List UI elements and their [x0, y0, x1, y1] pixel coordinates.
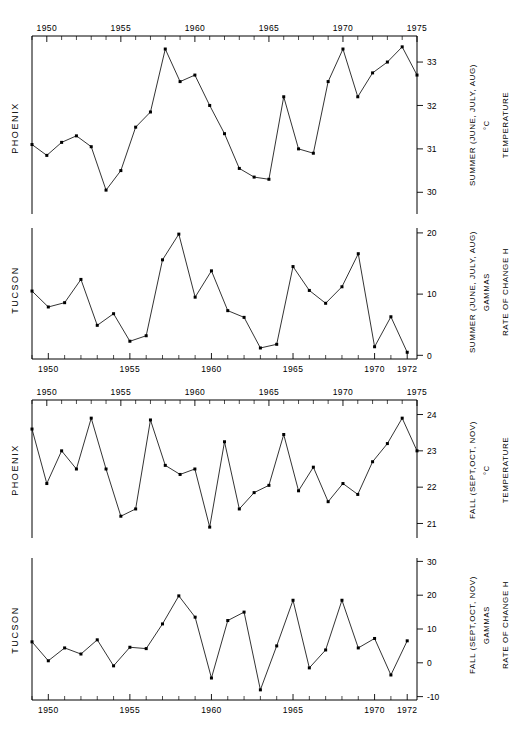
x-tick-label: 1960 [185, 387, 206, 397]
data-point-marker [308, 666, 311, 669]
data-point-marker [253, 491, 256, 494]
y-tick-label: 22 [427, 482, 437, 492]
data-point-marker [112, 312, 115, 315]
figure-background [0, 0, 528, 731]
y-tick-label: 30 [427, 557, 437, 567]
panel-right-label-primary: FALL (SEPT,OCT, NOV) [468, 576, 477, 674]
data-point-marker [275, 343, 278, 346]
y-tick-label: 0 [427, 351, 432, 361]
data-point-marker [223, 440, 226, 443]
data-point-marker [356, 493, 359, 496]
data-point-marker [90, 145, 93, 148]
data-point-marker [119, 169, 122, 172]
data-point-marker [96, 638, 99, 641]
data-point-marker [210, 677, 213, 680]
x-tick-label: 1955 [120, 364, 141, 374]
data-point-marker [341, 48, 344, 51]
data-point-marker [292, 599, 295, 602]
data-point-marker [223, 132, 226, 135]
data-point-marker [243, 316, 246, 319]
data-point-marker [96, 324, 99, 327]
data-point-marker [47, 305, 50, 308]
data-point-marker [179, 473, 182, 476]
data-point-marker [75, 468, 78, 471]
data-point-marker [401, 417, 404, 420]
data-point-marker [341, 482, 344, 485]
panel-left-label: PHOENIX [10, 102, 20, 154]
data-point-marker [164, 48, 167, 51]
panel-right-label-primary: SUMMER (JUNE, JULY, AUG) [468, 64, 477, 186]
data-point-marker [177, 594, 180, 597]
data-point-marker [79, 278, 82, 281]
x-tick-label: 1965 [259, 23, 280, 33]
x-tick-label: 1970 [333, 387, 354, 397]
x-tick-label: 1965 [283, 364, 304, 374]
data-point-marker [45, 482, 48, 485]
y-tick-label: 20 [427, 590, 437, 600]
panel-right-label-primary: SUMMER (JUNE, JULY, AUG) [468, 231, 477, 353]
data-point-marker [105, 468, 108, 471]
y-tick-label: 10 [427, 624, 437, 634]
data-point-marker [292, 265, 295, 268]
panel-right-label-secondary: TEMPERATURE [501, 92, 510, 158]
data-point-marker [149, 110, 152, 113]
data-point-marker [297, 489, 300, 492]
data-point-marker [226, 309, 229, 312]
x-tick-label: 1965 [283, 705, 304, 715]
multi-panel-timeseries-chart: 19501955196019651970197530313233PHOENIXS… [0, 0, 528, 731]
panel-right-label-unit: GAMMAS [482, 606, 491, 644]
data-point-marker [357, 646, 360, 649]
data-point-marker [60, 449, 63, 452]
data-point-marker [373, 637, 376, 640]
data-point-marker [327, 500, 330, 503]
data-point-marker [161, 622, 164, 625]
data-point-marker [308, 289, 311, 292]
data-point-marker [386, 442, 389, 445]
data-point-marker [128, 646, 131, 649]
data-point-marker [267, 178, 270, 181]
data-point-marker [238, 167, 241, 170]
data-point-marker [243, 611, 246, 614]
x-tick-label: 1950 [37, 387, 58, 397]
panel-right-label-unit: GAMMAS [482, 273, 491, 311]
data-point-marker [105, 189, 108, 192]
panel-right-label-unit: °C [482, 120, 491, 130]
y-tick-label: 10 [427, 289, 437, 299]
data-point-marker [60, 141, 63, 144]
data-point-marker [312, 466, 315, 469]
x-tick-label: 1972 [397, 364, 418, 374]
x-tick-label: 1972 [397, 705, 418, 715]
data-point-marker [208, 526, 211, 529]
data-point-marker [356, 95, 359, 98]
data-point-marker [128, 340, 131, 343]
data-point-marker [193, 468, 196, 471]
data-point-marker [327, 80, 330, 83]
data-point-marker [145, 647, 148, 650]
y-tick-label: 23 [427, 446, 437, 456]
data-point-marker [63, 301, 66, 304]
data-point-marker [119, 515, 122, 518]
y-tick-label: 31 [427, 144, 437, 154]
data-point-marker [31, 428, 34, 431]
data-point-marker [259, 688, 262, 691]
data-point-marker [75, 134, 78, 137]
x-tick-label: 1950 [38, 705, 59, 715]
data-point-marker [134, 507, 137, 510]
panel-left-label: TUCSON [10, 266, 20, 314]
y-tick-label: 21 [427, 519, 437, 529]
data-point-marker [297, 147, 300, 150]
panel-right-label-unit: °C [482, 465, 491, 475]
data-point-marker [312, 152, 315, 155]
data-point-marker [282, 95, 285, 98]
data-point-marker [208, 104, 211, 107]
x-tick-label: 1970 [364, 364, 385, 374]
x-tick-label: 1970 [333, 23, 354, 33]
x-tick-label: 1955 [111, 387, 132, 397]
x-tick-label: 1975 [407, 387, 428, 397]
x-tick-label: 1965 [259, 387, 280, 397]
data-point-marker [145, 334, 148, 337]
data-point-marker [267, 484, 270, 487]
data-point-marker [416, 74, 419, 77]
y-tick-label: 32 [427, 101, 437, 111]
data-point-marker [149, 418, 152, 421]
